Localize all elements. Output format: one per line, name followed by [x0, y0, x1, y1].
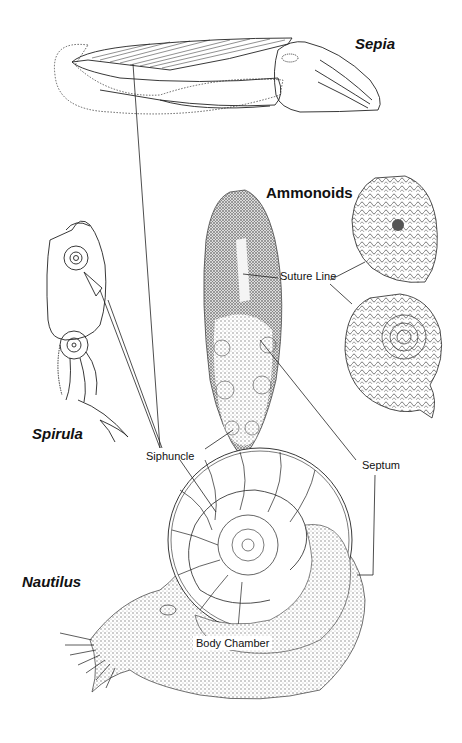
sepia-label: Sepia [355, 35, 395, 52]
nautilus-drawing [60, 448, 365, 699]
ammonoids-label: Ammonoids [266, 184, 353, 201]
suture-line-label: Suture Line [280, 270, 336, 282]
sepia-drawing [54, 38, 380, 114]
spirula-label: Spirula [32, 425, 83, 442]
diagram-canvas [0, 0, 462, 743]
nautilus-label: Nautilus [22, 573, 81, 590]
septum-label: Septum [362, 459, 400, 471]
ammonoid-shell-bottom [345, 294, 442, 418]
body-chamber-label: Body Chamber [193, 636, 272, 650]
ammonoid-internal-drawing [204, 190, 282, 458]
siphuncle-label: Siphuncle [146, 450, 194, 462]
ammonoid-shell-top [352, 176, 437, 282]
